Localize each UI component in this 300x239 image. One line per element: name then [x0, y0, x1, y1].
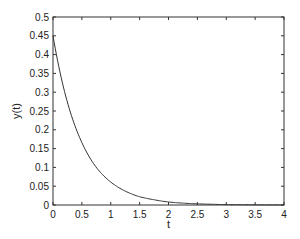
x-axis-ticks: 00.511.522.533.54 — [50, 17, 287, 220]
y-tick-label: 0.4 — [35, 49, 49, 60]
plot-frame — [53, 17, 284, 205]
x-tick-label: 0 — [50, 209, 56, 220]
line-chart: 00.511.522.533.54 00.050.10.150.20.250.3… — [0, 0, 300, 239]
y-tick-label: 0.35 — [30, 68, 50, 79]
data-line — [53, 36, 284, 205]
y-tick-label: 0.1 — [35, 162, 49, 173]
y-tick-label: 0.3 — [35, 87, 49, 98]
y-tick-label: 0.2 — [35, 124, 49, 135]
x-tick-label: 1.5 — [133, 209, 147, 220]
x-tick-label: 4 — [281, 209, 287, 220]
x-tick-label: 3.5 — [248, 209, 262, 220]
x-tick-label: 0.5 — [75, 209, 89, 220]
x-tick-label: 3 — [223, 209, 229, 220]
y-tick-label: 0.5 — [35, 12, 49, 23]
x-axis-label: t — [167, 218, 170, 230]
y-axis-label: y(t) — [10, 103, 22, 119]
y-axis-ticks: 00.050.10.150.20.250.30.350.40.450.5 — [30, 12, 284, 211]
y-tick-label: 0.15 — [30, 143, 50, 154]
y-tick-label: 0 — [43, 200, 49, 211]
x-tick-label: 2.5 — [190, 209, 204, 220]
x-tick-label: 1 — [108, 209, 114, 220]
y-tick-label: 0.25 — [30, 106, 50, 117]
y-tick-label: 0.45 — [30, 30, 50, 41]
y-tick-label: 0.05 — [30, 181, 50, 192]
